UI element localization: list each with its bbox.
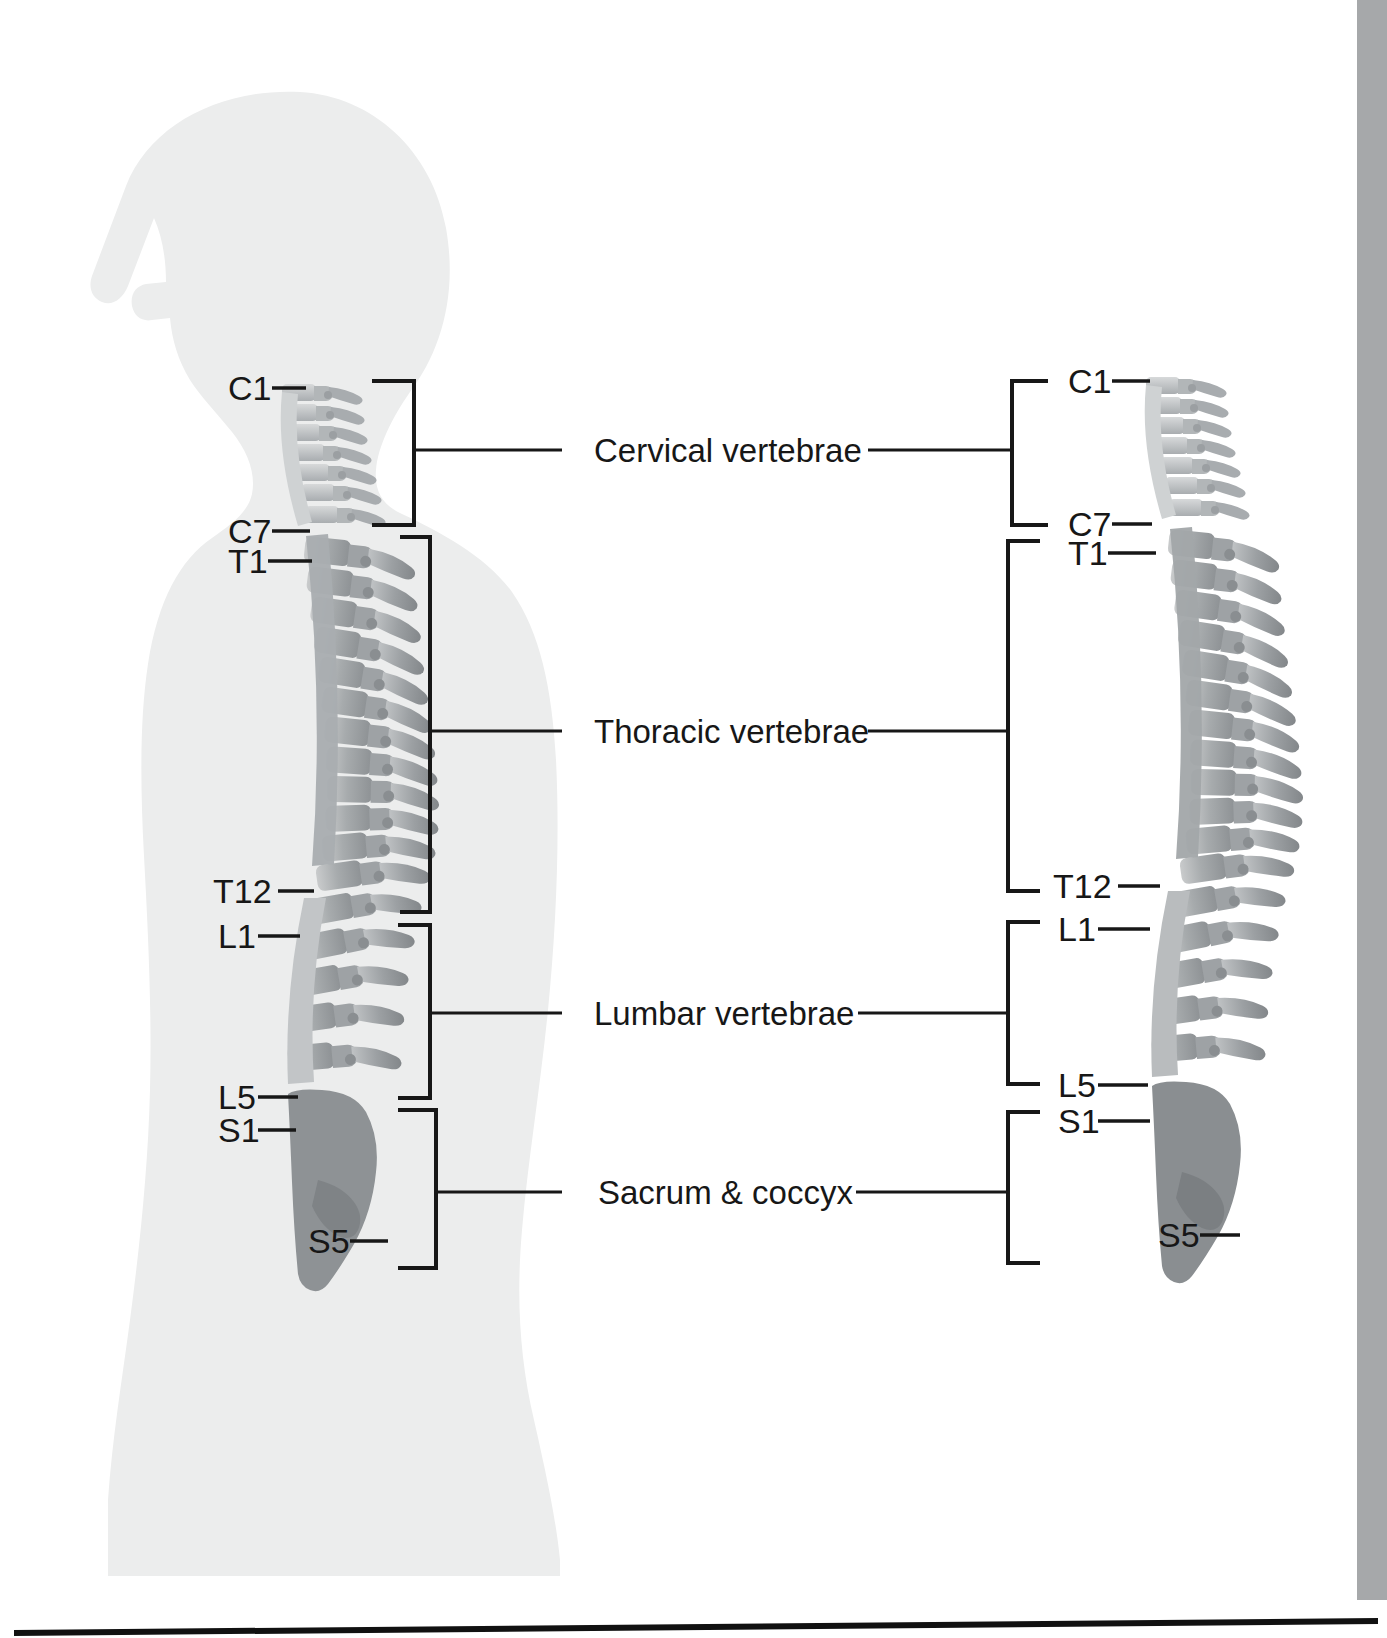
right-spine-rendering xyxy=(1145,377,1304,1283)
right-bracket-lumbar xyxy=(1008,922,1040,1084)
group-label-cervical: Cervical vertebrae xyxy=(594,432,862,469)
group-label-lumbar: Lumbar vertebrae xyxy=(594,995,854,1032)
left-label-C1: C1 xyxy=(228,369,271,407)
group-labels: Cervical vertebrae Thoracic vertebrae Lu… xyxy=(594,432,869,1211)
anatomy-diagram: C1 C7 T1 T12 L1 L5 S1 S5 C1 C7 T1 T12 L1… xyxy=(0,0,1387,1638)
right-edge-rail xyxy=(1357,0,1387,1600)
left-label-T12: T12 xyxy=(213,872,272,910)
bottom-rule xyxy=(14,1618,1378,1636)
right-bracket-sacrum xyxy=(1008,1112,1040,1263)
group-label-thoracic: Thoracic vertebrae xyxy=(594,713,869,750)
right-bracket-cervical xyxy=(1012,381,1048,525)
right-label-L5: L5 xyxy=(1058,1066,1096,1104)
figure-canvas: C1 C7 T1 T12 L1 L5 S1 S5 C1 C7 T1 T12 L1… xyxy=(0,0,1387,1638)
right-brackets xyxy=(1008,381,1048,1263)
right-label-C1: C1 xyxy=(1068,362,1111,400)
left-label-L1: L1 xyxy=(218,917,256,955)
left-label-S1: S1 xyxy=(218,1111,260,1149)
right-label-L1: L1 xyxy=(1058,910,1096,948)
right-label-T1: T1 xyxy=(1068,534,1108,572)
left-label-S5: S5 xyxy=(308,1222,350,1260)
group-label-sacrum: Sacrum & coccyx xyxy=(598,1174,853,1211)
left-label-T1: T1 xyxy=(228,542,268,580)
right-label-S5: S5 xyxy=(1158,1216,1200,1254)
right-label-T12: T12 xyxy=(1053,867,1112,905)
right-label-S1: S1 xyxy=(1058,1102,1100,1140)
right-bracket-thoracic xyxy=(1008,541,1040,891)
